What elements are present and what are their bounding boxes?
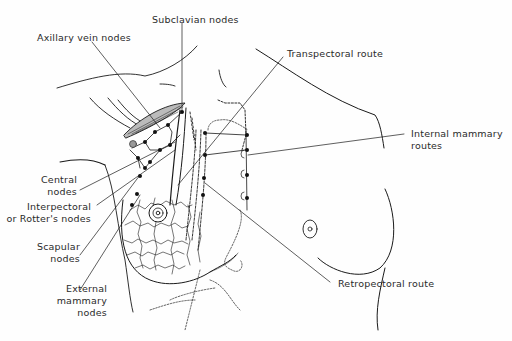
label-line: nodes	[37, 253, 80, 265]
label-line: routes	[411, 140, 503, 152]
label-interpectoral-nodes: Interpectoral or Rotter's nodes	[6, 201, 91, 225]
label-line: Interpectoral	[6, 201, 91, 213]
label-line: Scapular	[37, 241, 80, 253]
label-line: Internal mammary	[411, 128, 503, 140]
label-transpectoral-route: Transpectoral route	[287, 48, 383, 60]
label-subclavian-nodes: Subclavian nodes	[152, 14, 239, 26]
label-line: mammary	[57, 295, 107, 307]
label-line: nodes	[41, 186, 77, 198]
label-line: Central	[41, 174, 77, 186]
label-line: or Rotter's nodes	[6, 213, 91, 225]
label-line: External	[57, 283, 107, 295]
label-scapular-nodes: Scapular nodes	[37, 241, 80, 265]
label-retropectoral-route: Retropectoral route	[338, 278, 434, 290]
lymphatic-drainage-diagram: Subclavian nodes Axillary vein nodes Tra…	[0, 0, 512, 341]
label-central-nodes: Central nodes	[41, 174, 77, 198]
label-external-mammary-nodes: External mammary nodes	[57, 283, 107, 319]
label-line: nodes	[57, 307, 107, 319]
label-axillary-vein-nodes: Axillary vein nodes	[37, 32, 131, 44]
label-internal-mammary-routes: Internal mammary routes	[411, 128, 503, 152]
